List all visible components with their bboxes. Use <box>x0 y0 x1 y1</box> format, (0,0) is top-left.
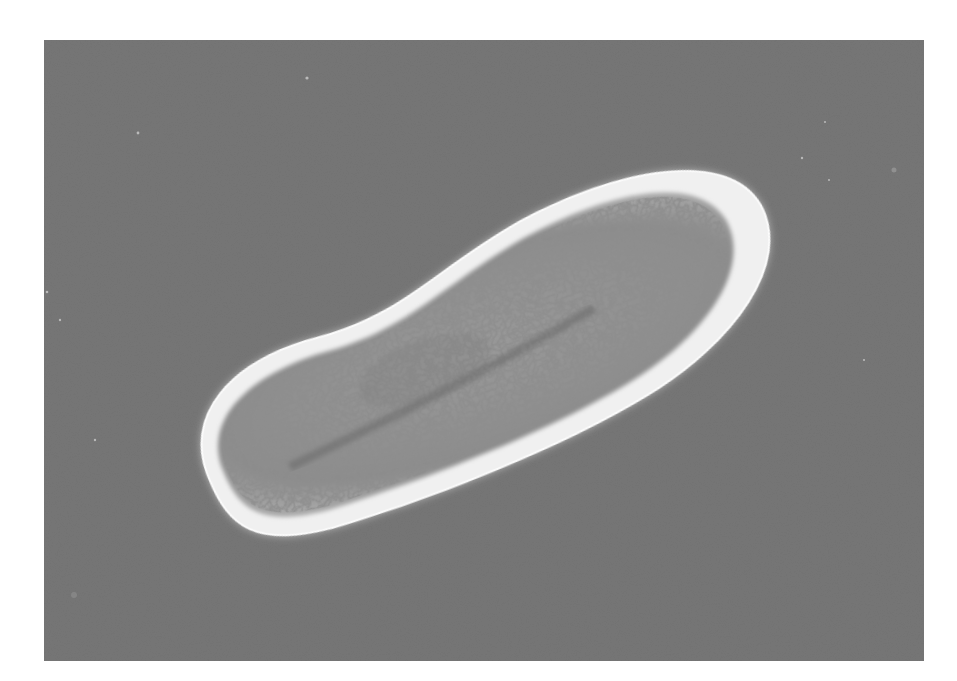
micrograph-photo <box>44 40 924 661</box>
page <box>0 0 957 681</box>
organism-illustration <box>44 40 924 661</box>
